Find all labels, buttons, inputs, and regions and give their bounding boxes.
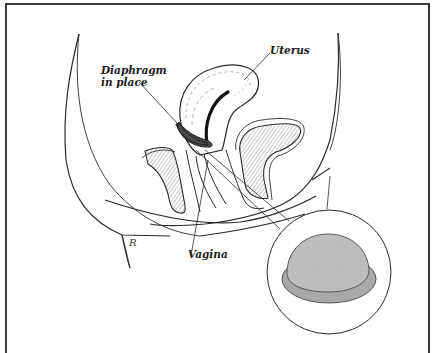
- diaphragm-inset: [267, 210, 391, 334]
- uterus-label: Uterus: [270, 44, 310, 56]
- artist-signature: R: [129, 237, 137, 248]
- bladder-shape: [236, 119, 304, 200]
- rectum-shape: [142, 147, 185, 213]
- diaphragm-label-line2: in place: [101, 76, 167, 88]
- diaphragm-label-line1: Diaphragm: [101, 64, 167, 76]
- vagina-label: Vagina: [188, 248, 228, 260]
- diaphragm-label: Diaphragm in place: [101, 64, 167, 88]
